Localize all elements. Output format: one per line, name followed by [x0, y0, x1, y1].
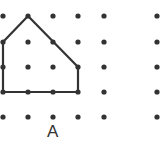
grid-dot: [50, 114, 55, 119]
grid-dot: [101, 64, 106, 69]
grid-dot: [25, 64, 30, 69]
grid-dot: [0, 13, 5, 18]
grid-dot: [50, 64, 55, 69]
grid-dot: [101, 114, 106, 119]
grid-dot: [154, 89, 159, 94]
grid-dot: [25, 114, 30, 119]
grid-dot: [0, 114, 5, 119]
polygon-a: [3, 16, 78, 92]
grid-dot: [75, 114, 80, 119]
polygon-label: A: [47, 122, 58, 142]
grid-dot: [154, 64, 159, 69]
grid-dot: [154, 39, 159, 44]
grid-dot: [75, 39, 80, 44]
grid-dot: [154, 114, 159, 119]
dot-grid-diagram: [0, 0, 160, 142]
grid-dot: [75, 13, 80, 18]
grid-dot: [25, 39, 30, 44]
grid-dot: [101, 39, 106, 44]
grid-dot: [154, 13, 159, 18]
grid-dot: [101, 89, 106, 94]
grid-dot: [101, 13, 106, 18]
grid-dot: [50, 13, 55, 18]
grid-dots: [0, 13, 159, 119]
